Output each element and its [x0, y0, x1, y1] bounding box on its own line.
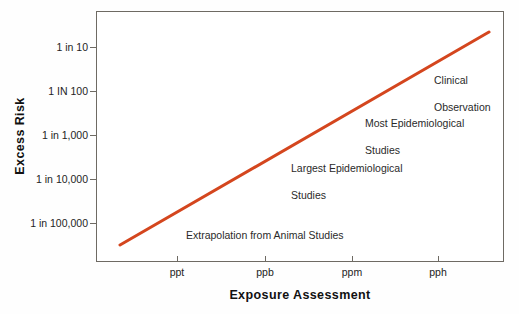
annotation-extrapolation: Extrapolation from Animal Studies [186, 215, 344, 242]
y-axis-tick-label: 1 IN 100 [48, 84, 88, 98]
y-axis-tick-2: 1 IN 100 [0, 84, 96, 98]
y-axis-tick-mark [90, 91, 96, 92]
annotation-extrapolation-text: Extrapolation from Animal Studies [186, 229, 344, 241]
x-axis-tick-mark [438, 256, 439, 262]
annotation-clinical-observation-line2: Observation [434, 101, 491, 115]
x-axis-tick-mark [265, 256, 266, 262]
y-axis-tick-3: 1 in 1,000 [0, 128, 96, 142]
y-axis-tick-mark [90, 223, 96, 224]
y-axis-tick-4: 1 in 10,000 [0, 172, 96, 186]
x-axis-tick-label-ppm: ppm [322, 266, 382, 278]
annotation-clinical-observation-line1: Clinical [434, 74, 491, 88]
chart-figure: Excess Risk 1 in 10 1 IN 100 1 in 1,000 … [0, 0, 519, 314]
y-axis-tick-mark [90, 179, 96, 180]
x-axis-tick-label-ppt: ppt [147, 266, 207, 278]
y-axis-tick-label: 1 in 100,000 [30, 216, 88, 230]
annotation-largest-epidemiological-line2: Studies [291, 189, 402, 203]
y-axis-tick-5: 1 in 100,000 [0, 216, 96, 230]
x-axis-tick-mark [177, 256, 178, 262]
y-axis-tick-label: 1 in 10,000 [36, 172, 88, 186]
y-axis-tick-label: 1 in 10 [56, 40, 88, 54]
y-axis-tick-1: 1 in 10 [0, 40, 96, 54]
y-axis-tick-mark [90, 47, 96, 48]
annotation-most-epidemiological-line2: Studies [365, 144, 464, 158]
x-axis-tick-label-ppb: ppb [235, 266, 295, 278]
y-axis-tick-label: 1 in 1,000 [42, 128, 88, 142]
annotation-clinical-observation: Clinical Observation [434, 60, 491, 128]
x-axis-tick-label-pph: pph [408, 266, 468, 278]
x-axis-title: Exposure Assessment [96, 288, 504, 302]
x-axis-tick-mark [352, 256, 353, 262]
y-axis-tick-mark [90, 135, 96, 136]
